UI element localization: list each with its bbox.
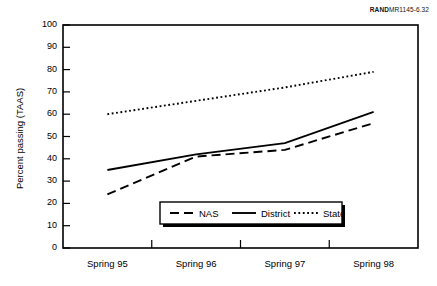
legend-label-district: District [261,208,290,219]
legend-label-state: State [323,208,345,219]
series-line-district [107,112,373,170]
chart-figure: RANDMR1145-6.32 Percent passing (TAAS) 0… [0,0,437,286]
plot-area: NASDistrictState [0,0,437,286]
series-line-nas [107,123,373,194]
legend-label-nas: NAS [199,208,219,219]
series-line-state [107,72,373,114]
